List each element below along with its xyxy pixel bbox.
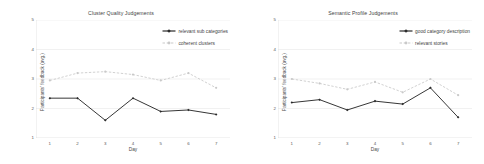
plot-area-right: 123451234567good category descriptionrel…: [278, 20, 472, 138]
x-tick-label: 2: [313, 142, 327, 146]
data-point: [132, 73, 134, 75]
y-tick-label: 2: [267, 106, 276, 110]
series-line: [292, 88, 458, 118]
x-tick-label: 7: [451, 142, 465, 146]
y-tick-label: 5: [267, 18, 276, 22]
data-point: [49, 97, 52, 100]
data-point: [76, 72, 78, 74]
y-tick-label: 4: [267, 47, 276, 51]
plot-svg-right: [278, 20, 472, 138]
x-tick-label: 5: [396, 142, 410, 146]
y-tick-label: 3: [25, 77, 34, 81]
y-tick-label: 4: [25, 47, 34, 51]
plot-svg-left: [36, 20, 230, 138]
x-tick-label: 6: [423, 142, 437, 146]
x-tick-label: 4: [126, 142, 140, 146]
series-line: [50, 98, 216, 120]
y-tick-label: 2: [25, 106, 34, 110]
data-point: [318, 98, 321, 101]
data-point: [215, 87, 217, 89]
x-tick-label: 7: [209, 142, 223, 146]
x-tick-label: 1: [43, 142, 57, 146]
data-point: [374, 81, 376, 83]
data-point: [429, 78, 431, 80]
data-point: [49, 79, 51, 81]
data-point: [291, 101, 294, 104]
x-tick-label: 2: [71, 142, 85, 146]
x-axis-label-left: Day: [36, 147, 230, 152]
chart-title-left: Cluster Quality Judgements: [0, 10, 242, 16]
data-point: [215, 113, 218, 116]
x-axis-label-right: Day: [278, 147, 472, 152]
data-point: [402, 91, 404, 93]
data-point: [374, 100, 377, 103]
chart-panel-left: Cluster Quality Judgements Participants'…: [0, 0, 242, 164]
y-tick-label: 1: [25, 136, 34, 140]
y-tick-label: 5: [25, 18, 34, 22]
data-point: [187, 72, 189, 74]
data-point: [291, 78, 293, 80]
figure-container: Cluster Quality Judgements Participants'…: [0, 0, 484, 164]
y-tick-label: 1: [267, 136, 276, 140]
data-point: [318, 82, 320, 84]
data-point: [346, 109, 349, 112]
chart-title-right: Semantic Profile Judgements: [242, 10, 484, 16]
data-point: [160, 79, 162, 81]
x-tick-label: 3: [98, 142, 112, 146]
x-tick-label: 3: [340, 142, 354, 146]
data-point: [187, 109, 190, 112]
data-point: [457, 94, 459, 96]
y-tick-label: 3: [267, 77, 276, 81]
x-tick-label: 5: [154, 142, 168, 146]
plot-area-left: 123451234567relevant sub categoriescoher…: [36, 20, 230, 138]
x-tick-label: 1: [285, 142, 299, 146]
data-point: [346, 88, 348, 90]
data-point: [104, 71, 106, 73]
x-tick-label: 6: [181, 142, 195, 146]
chart-panel-right: Semantic Profile Judgements Participants…: [242, 0, 484, 164]
x-tick-label: 4: [368, 142, 382, 146]
